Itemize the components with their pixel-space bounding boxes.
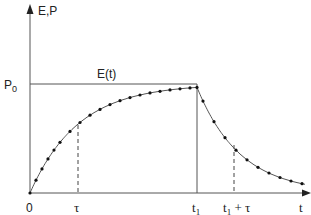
data-point xyxy=(245,158,248,161)
data-point xyxy=(188,86,191,89)
data-point xyxy=(88,114,91,117)
data-point xyxy=(267,171,270,174)
data-point xyxy=(46,157,49,160)
data-point xyxy=(168,88,171,91)
data-point xyxy=(138,93,141,96)
tick-t1: t1 xyxy=(192,200,200,215)
data-point xyxy=(108,103,111,106)
data-point xyxy=(52,149,55,152)
data-point xyxy=(289,179,292,182)
data-point xyxy=(78,121,81,124)
data-point xyxy=(300,182,303,185)
tick-t1-plus-tau: t1 + τ xyxy=(223,200,250,215)
data-point xyxy=(40,167,43,170)
data-point xyxy=(58,141,61,144)
data-point xyxy=(278,176,281,179)
x-axis-label: t xyxy=(299,200,303,215)
data-point xyxy=(256,166,259,169)
data-point xyxy=(234,149,237,152)
data-point xyxy=(118,99,121,102)
p0-label: P0 xyxy=(4,78,17,94)
data-point xyxy=(178,87,181,90)
data-point xyxy=(158,90,161,93)
data-point xyxy=(201,100,204,103)
y-axis-label: E,P xyxy=(38,4,57,18)
data-point xyxy=(28,191,31,194)
diagram: E,P t P0 E(t) 0 τ t1 t1 + τ xyxy=(0,0,311,215)
tick-tau: τ xyxy=(74,200,79,215)
tick-origin: 0 xyxy=(26,201,33,215)
x-axis-arrow-icon xyxy=(302,190,311,197)
curve-label: E(t) xyxy=(97,67,116,81)
data-point xyxy=(195,86,198,89)
data-point xyxy=(98,108,101,111)
data-point xyxy=(68,130,71,133)
y-axis-arrow-icon xyxy=(27,4,34,14)
data-point xyxy=(128,96,131,99)
e-curve xyxy=(28,86,305,195)
data-point xyxy=(212,120,215,123)
data-point xyxy=(34,179,37,182)
data-point xyxy=(148,91,151,94)
data-point xyxy=(223,136,226,139)
